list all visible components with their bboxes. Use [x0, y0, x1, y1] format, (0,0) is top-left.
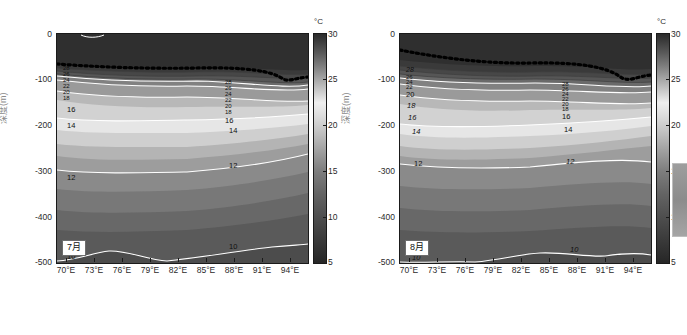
y-tick-200: -200	[8, 120, 52, 130]
month-tag-august: 8月	[405, 240, 429, 256]
contour-label-18: 18	[407, 102, 415, 110]
contour-label-14-right: 14	[229, 127, 237, 135]
panel-august: 深度(m)	[343, 0, 686, 335]
contour-label-20: 20	[406, 91, 414, 99]
x-tick-91E: 91°E	[596, 265, 615, 275]
colorbar-july	[313, 33, 327, 264]
contour-label-14-right: 14	[564, 126, 572, 134]
contour-label-12: 12	[67, 174, 75, 182]
x-tickmark	[633, 258, 634, 262]
colorbar-tickmark	[323, 217, 326, 218]
y-tick-400: -400	[351, 212, 395, 222]
y-tick-100: -100	[8, 74, 52, 84]
x-tick-94E: 94°E	[624, 265, 643, 275]
plot-area-august: 28 26 24 22 20 18 16 14 12 10 28 26 24 2…	[399, 33, 652, 264]
x-tickmark	[605, 258, 606, 262]
colorbar-tickmark	[666, 217, 669, 218]
contour-label-12-right: 12	[229, 162, 237, 170]
x-tickmark	[409, 258, 410, 262]
y-tick-300: -300	[351, 166, 395, 176]
contour-label-16: 16	[408, 114, 416, 122]
x-tick-76E: 76°E	[113, 265, 132, 275]
x-tick-94E: 94°E	[281, 265, 300, 275]
x-tick-82E: 82°E	[169, 265, 188, 275]
colorbar-tick-20: 20	[328, 120, 337, 130]
contour-label-10-right: 10	[570, 246, 578, 254]
colorbar-tick-10: 10	[328, 212, 337, 222]
y-tick-300: -300	[8, 166, 52, 176]
colorbar-tick-30: 30	[328, 29, 337, 39]
colorbar-unit-august: °C	[657, 17, 666, 26]
x-tickmark	[94, 258, 95, 262]
colorbar-tickmark	[666, 171, 669, 172]
colorbar-tickmark	[323, 171, 326, 172]
x-tickmark	[206, 258, 207, 262]
colorbar-tickmark	[323, 33, 326, 34]
panel-july: 深度(m)	[0, 0, 343, 335]
colorbar-tick-15: 15	[328, 166, 337, 176]
cropped-colorbar-fragment	[672, 163, 687, 237]
contour-label-16-right: 16	[562, 113, 570, 121]
colorbar-tick-5: 5	[671, 257, 676, 267]
x-tickmark	[549, 258, 550, 262]
colorbar-august	[656, 33, 670, 264]
contour-label-18: 18	[63, 96, 69, 102]
contour-label-18-right: 18	[225, 110, 231, 116]
colorbar-tickmark	[666, 33, 669, 34]
x-tickmark	[290, 258, 291, 262]
x-tick-82E: 82°E	[512, 265, 531, 275]
colorbar-tick-25: 25	[328, 74, 337, 84]
x-tick-79E: 79°E	[484, 265, 503, 275]
colorbar-tickmark	[666, 125, 669, 126]
x-tickmark	[234, 258, 235, 262]
colorbar-tickmark	[323, 79, 326, 80]
x-tickmark	[577, 258, 578, 262]
contour-label-14: 14	[67, 122, 75, 130]
plot-area-july: 28 26 24 22 20 18 16 14 12 10 28 26 24 2…	[56, 33, 309, 264]
contour-label-10-right: 10	[229, 243, 237, 251]
colorbar-tick-30: 30	[671, 29, 680, 39]
x-tickmark	[521, 258, 522, 262]
contour-label-28: 28	[406, 66, 414, 74]
x-tick-79E: 79°E	[141, 265, 160, 275]
x-tickmark	[262, 258, 263, 262]
colorbar-gradient	[314, 34, 326, 263]
colorbar-unit-july: °C	[314, 17, 323, 26]
y-tick-100: -100	[351, 74, 395, 84]
x-tick-85E: 85°E	[540, 265, 559, 275]
contour-label-14: 14	[412, 128, 420, 136]
x-tickmark	[465, 258, 466, 262]
x-tick-76E: 76°E	[456, 265, 475, 275]
x-tickmark	[122, 258, 123, 262]
colorbar-tick-25: 25	[671, 74, 680, 84]
x-tickmark	[437, 258, 438, 262]
colorbar-tickmark	[323, 125, 326, 126]
contour-label-16: 16	[67, 106, 75, 114]
x-tick-70E: 70°E	[57, 265, 76, 275]
y-tick-0: 0	[351, 29, 395, 39]
colorbar-tickmark	[666, 79, 669, 80]
month-tag-july: 7月	[62, 240, 86, 256]
contour-label-16-right: 16	[225, 117, 233, 125]
y-tick-500: -500	[8, 257, 52, 267]
contour-label-12-right: 12	[566, 158, 574, 166]
x-tick-88E: 88°E	[568, 265, 587, 275]
x-tick-73E: 73°E	[428, 265, 447, 275]
x-tickmark	[150, 258, 151, 262]
contour-fill-july	[57, 34, 308, 263]
x-tick-85E: 85°E	[197, 265, 216, 275]
x-tickmark	[178, 258, 179, 262]
y-tick-0: 0	[8, 29, 52, 39]
contour-label-12: 12	[414, 160, 422, 168]
x-tick-73E: 73°E	[85, 265, 104, 275]
x-tickmark	[493, 258, 494, 262]
y-tick-500: -500	[351, 257, 395, 267]
colorbar-gradient	[657, 34, 669, 263]
contour-fill-august	[400, 34, 651, 263]
x-tick-91E: 91°E	[253, 265, 272, 275]
y-tick-200: -200	[351, 120, 395, 130]
y-tick-400: -400	[8, 212, 52, 222]
x-tick-88E: 88°E	[225, 265, 244, 275]
colorbar-tick-20: 20	[671, 120, 680, 130]
